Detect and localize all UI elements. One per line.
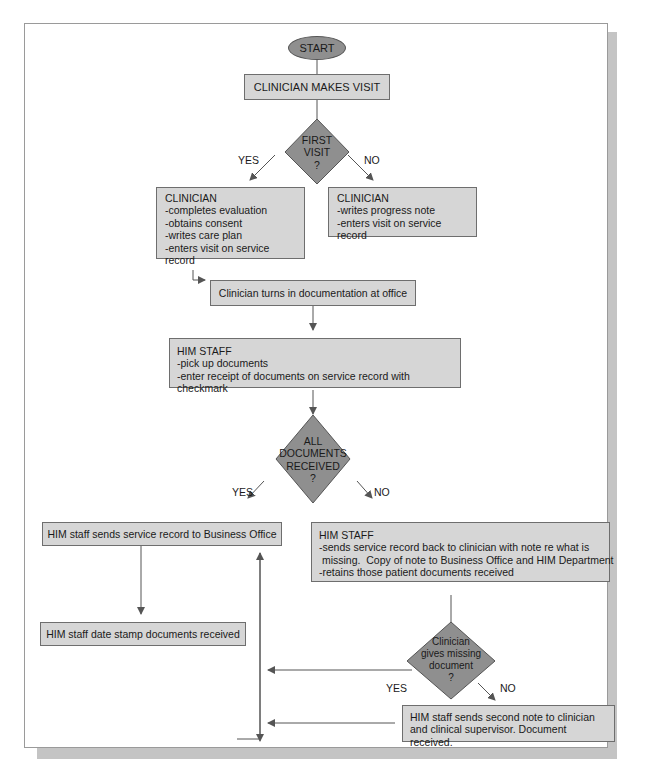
box-item: -enters visit on service record [165, 242, 296, 267]
box-item: -pick up documents [177, 357, 453, 369]
box-item: -retains those patient documents receive… [319, 566, 602, 578]
step-label: Clinician turns in documentation at offi… [219, 287, 407, 299]
label-yes: YES [232, 486, 253, 498]
box-item: -writes care plan [165, 229, 296, 241]
decision-line: ? [273, 472, 353, 484]
step-send-to-business-office: HIM staff sends service record to Busine… [42, 522, 282, 546]
box-item: and clinical supervisor. Document receiv… [410, 723, 607, 748]
box-title: CLINICIAN [165, 192, 296, 204]
label-no: NO [364, 154, 380, 166]
label-no: NO [500, 682, 516, 694]
decision-line: document [411, 660, 491, 672]
box-item: HIM staff sends second note to clinician [410, 711, 607, 723]
label-no: NO [374, 486, 390, 498]
label-yes: YES [238, 154, 259, 166]
clinician-return-visit-box: CLINICIAN -writes progress note -enters … [328, 187, 477, 237]
step-label: HIM staff date stamp documents received [46, 628, 240, 640]
step-turn-in-documentation: Clinician turns in documentation at offi… [210, 280, 416, 306]
him-staff-missing-box: HIM STAFF -sends service record back to … [311, 522, 610, 582]
label-yes: YES [386, 682, 407, 694]
box-title: CLINICIAN [337, 192, 468, 204]
step-second-note: HIM staff sends second note to clinician… [402, 705, 615, 742]
box-item: -completes evaluation [165, 204, 296, 216]
decision-all-documents-text: ALL DOCUMENTS RECEIVED ? [273, 435, 353, 484]
decision-line: FIRST [287, 134, 347, 146]
decision-line: DOCUMENTS [273, 447, 353, 459]
decision-line: RECEIVED [273, 460, 353, 472]
box-title: HIM STAFF [319, 529, 602, 541]
step-label: CLINICIAN MAKES VISIT [254, 81, 381, 93]
decision-first-visit-text: FIRST VISIT ? [287, 134, 347, 171]
box-item: missing. Copy of note to Business Office… [319, 554, 602, 566]
box-title: HIM STAFF [177, 345, 453, 357]
box-item: -enters visit on service record [337, 217, 468, 242]
him-staff-pickup-box: HIM STAFF -pick up documents -enter rece… [169, 338, 461, 388]
box-item: -obtains consent [165, 217, 296, 229]
decision-line: ALL [273, 435, 353, 447]
decision-line: ? [411, 672, 491, 684]
decision-line: ? [287, 159, 347, 171]
step-clinician-makes-visit: CLINICIAN MAKES VISIT [244, 74, 390, 100]
decision-line: VISIT [287, 146, 347, 158]
decision-line: gives missing [411, 648, 491, 660]
decision-line: Clinician [411, 636, 491, 648]
box-item: -writes progress note [337, 204, 468, 216]
step-label: HIM staff sends service record to Busine… [48, 528, 277, 540]
step-date-stamp: HIM staff date stamp documents received [40, 622, 246, 646]
box-item: -sends service record back to clinician … [319, 541, 602, 553]
box-item: -enter receipt of documents on service r… [177, 370, 453, 395]
decision-missing-document-text: Clinician gives missing document ? [411, 636, 491, 684]
clinician-first-visit-box: CLINICIAN -completes evaluation -obtains… [156, 187, 305, 259]
start-terminator: START [288, 36, 346, 60]
